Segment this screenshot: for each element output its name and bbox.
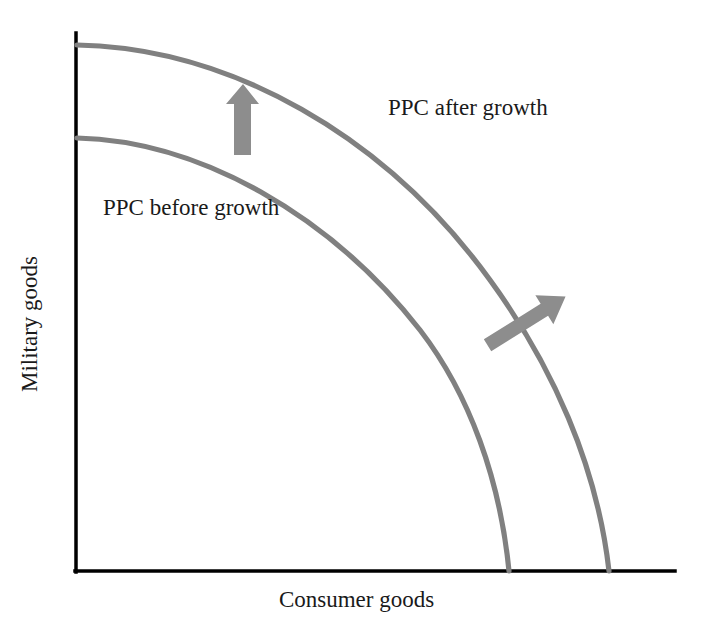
up-right-arrow-icon	[479, 282, 575, 360]
up-right-arrow-group	[479, 282, 575, 360]
ppc-curve-after-growth	[77, 45, 609, 571]
ppc-diagram-figure: PPC after growth PPC before growth Consu…	[0, 0, 713, 621]
x-axis-label: Consumer goods	[0, 588, 713, 611]
up-arrow-icon	[226, 84, 259, 155]
ppc-chart-canvas	[0, 0, 713, 621]
ppc-after-growth-label: PPC after growth	[388, 96, 548, 119]
ppc-before-growth-label: PPC before growth	[103, 196, 279, 219]
